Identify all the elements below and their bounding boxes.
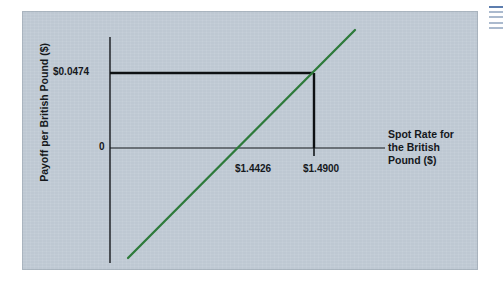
chart-figure-panel: Payoff per British Pound ($) $0.0474 0 $… <box>22 11 478 270</box>
margin-fragment-line <box>489 22 503 24</box>
x-tick-label-strike: $1.4900 <box>303 163 339 175</box>
y-axis-title: Payoff per British Pound ($) <box>38 27 51 197</box>
margin-fragment-line <box>489 16 503 18</box>
y-tick-label-payoff: $0.0474 <box>53 66 89 78</box>
margin-fragment-line <box>489 11 503 13</box>
x-axis-title: Spot Rate for the British Pound ($) <box>388 128 454 166</box>
y-tick-label-zero: 0 <box>99 141 105 153</box>
margin-text-fragment <box>489 6 503 31</box>
margin-fragment-line <box>489 6 503 8</box>
x-axis-title-line-1: Spot Rate for <box>388 128 454 141</box>
x-tick-label-breakeven: $1.4426 <box>235 163 271 175</box>
payoff-line <box>128 30 355 258</box>
x-axis-title-line-2: the British <box>388 141 454 154</box>
x-axis-title-line-3: Pound ($) <box>388 154 454 167</box>
margin-fragment-line <box>489 27 503 29</box>
